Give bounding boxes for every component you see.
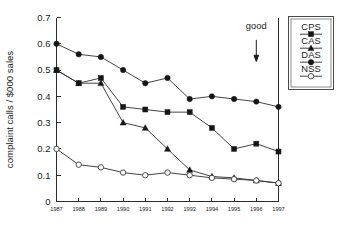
x-tick-label: 1988 — [72, 206, 84, 212]
x-tick-label: 1994 — [206, 206, 218, 212]
data-point-marker — [187, 173, 192, 178]
x-tick-label: 1992 — [161, 206, 173, 212]
annotation-label: good — [246, 20, 267, 31]
annotation-good: good — [246, 20, 267, 61]
data-point-marker — [231, 176, 236, 181]
x-axis-ticks: 1987198819891990199119921993199419951996… — [50, 198, 284, 213]
data-point-marker — [165, 75, 170, 80]
data-point-marker — [187, 110, 192, 115]
data-point-marker — [209, 175, 214, 180]
line-chart: 00.10.20.30.40.50.60.7198719881989199019… — [0, 0, 339, 230]
data-point-marker — [209, 94, 214, 99]
y-tick-label: 0.7 — [37, 12, 50, 23]
data-point-marker — [120, 119, 126, 125]
data-point-marker — [308, 74, 313, 79]
data-point-marker — [254, 141, 259, 146]
y-tick-label: 0.3 — [37, 117, 50, 128]
y-axis-title: complaint calls / $000 sales — [4, 51, 15, 169]
x-tick-label: 1989 — [95, 206, 107, 212]
data-point-marker — [143, 81, 148, 86]
y-tick-label: 0.2 — [37, 143, 50, 154]
data-point-marker — [98, 54, 103, 59]
data-point-marker — [209, 125, 214, 130]
legend-label: NSS — [301, 63, 320, 74]
annotation-arrow-head — [254, 55, 259, 61]
data-point-marker — [143, 107, 148, 112]
legend-label: CAS — [301, 35, 320, 46]
x-tick-label: 1990 — [117, 206, 129, 212]
series-das — [54, 41, 281, 109]
data-point-marker — [143, 173, 148, 178]
legend-label: CPS — [301, 21, 320, 32]
data-point-marker — [120, 67, 125, 72]
y-tick-label: 0.1 — [37, 170, 50, 181]
data-point-marker — [120, 170, 125, 175]
data-point-marker — [254, 99, 259, 104]
data-point-marker — [231, 96, 236, 101]
data-point-marker — [121, 104, 126, 109]
data-point-marker — [232, 146, 237, 151]
x-tick-label: 1991 — [139, 206, 151, 212]
series-nss — [54, 146, 281, 186]
x-tick-label: 1996 — [250, 206, 262, 212]
legend: CPSCASDASNSS — [289, 17, 334, 90]
data-point-marker — [76, 162, 81, 167]
x-tick-label: 1995 — [228, 206, 240, 212]
legend-label: DAS — [301, 49, 320, 60]
data-point-marker — [98, 165, 103, 170]
y-axis-title-text: complaint calls / $000 sales — [4, 51, 15, 169]
data-point-marker — [276, 149, 281, 154]
chart-container: 00.10.20.30.40.50.60.7198719881989199019… — [0, 0, 339, 230]
series-cas — [54, 67, 282, 186]
y-tick-label: 0.6 — [37, 38, 50, 49]
x-tick-label: 1997 — [272, 206, 284, 212]
data-point-marker — [165, 110, 170, 115]
legend-entry-nss[interactable]: NSS — [300, 63, 322, 79]
x-tick-label: 1993 — [183, 206, 195, 212]
series-line — [57, 149, 279, 183]
data-point-marker — [76, 52, 81, 57]
y-tick-label: 0.5 — [37, 64, 50, 75]
data-point-marker — [254, 178, 259, 183]
x-tick-label: 1987 — [50, 206, 62, 212]
data-point-marker — [54, 41, 59, 46]
y-tick-label: 0.4 — [37, 91, 50, 102]
data-point-marker — [276, 180, 281, 185]
data-point-marker — [54, 146, 59, 151]
data-point-marker — [187, 96, 192, 101]
data-point-marker — [165, 170, 170, 175]
data-point-marker — [276, 104, 281, 109]
